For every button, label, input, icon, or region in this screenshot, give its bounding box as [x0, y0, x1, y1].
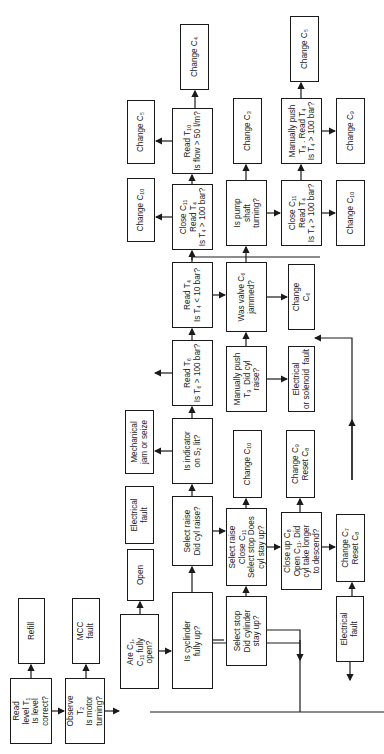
node-label: Electrical fault: [130, 498, 149, 531]
node-label: Electrical fault: [340, 612, 359, 645]
flowchart-node: Are C₁, C₁₁ fully open?: [120, 614, 159, 689]
node-label: Electrical or solenoid fault: [292, 349, 311, 409]
node-label: Read level T₁ Is level correct?: [12, 696, 50, 726]
flowchart-node: Electrical or solenoid fault: [288, 346, 315, 412]
flowchart-node: Refill: [18, 598, 45, 664]
flowchart-node: Close up C₈ Open C₁₁. Did cyl take longe…: [281, 512, 322, 590]
node-label: Change C₅: [136, 112, 146, 152]
node-label: Change C₆: [292, 283, 311, 312]
flowchart-node: Read T₄ Is T₄ < 10 bar?: [172, 262, 213, 328]
node-label: Select raise Close C₁₁ Select stop Does …: [227, 516, 265, 578]
node-label: Read T₆ Is T₆ > 100 bar?: [183, 344, 202, 402]
node-label: Open: [136, 565, 146, 585]
node-label: Change C₁₀: [243, 442, 253, 485]
flowchart-node: Change C₉ Reset C₈: [286, 430, 315, 498]
flowchart-node: Read T₆ Is T₆ > 100 bar?: [172, 340, 213, 406]
flowchart-node: Close C₁₁ Read T₄ Is T₄ > 100 bar?: [172, 184, 213, 250]
node-label: Read T₁₀ Is flow > 50 l/m?: [183, 111, 202, 170]
flowchart-node: Manually push T₉ Did cyl raise?: [226, 346, 267, 412]
flowchart-node: Was valve C₆ jammed?: [226, 262, 267, 332]
flowchart-node: Is cyclinder fully up?: [172, 592, 213, 689]
flowchart-node: Is indicator on S₂ lit?: [172, 418, 213, 484]
flowchart-node: Is pump shaft turning?: [226, 180, 267, 246]
node-label: Are C₁, C₁₁ fully open?: [125, 637, 154, 665]
node-label: Change C₇ Reset C₈: [341, 528, 360, 568]
node-label: Close up C₈ Open C₁₁. Did cyl take longe…: [282, 525, 320, 578]
node-label: Change C₄: [190, 37, 200, 77]
node-label: Change C₁₀: [136, 188, 146, 231]
node-label: Is cyclinder fully up?: [183, 620, 202, 661]
node-label: Close C₁₁ Read T₄ Is T₄ > 100 bar?: [287, 184, 316, 243]
node-label: Observe T₂ Is motor turning?: [66, 696, 104, 727]
node-label: Manually push T₈ . Read T₄ Is T₄ > 100 b…: [287, 102, 316, 161]
flowchart-node: Change C₇ Reset C₈: [336, 514, 365, 582]
flowchart-node: Open: [127, 549, 154, 601]
node-label: Mechanical jam or seize: [130, 420, 149, 464]
flowchart-node: MCC fault: [72, 598, 100, 664]
node-label: Is pump shaft turning?: [232, 198, 261, 228]
node-label: Was valve C₆ jammed?: [237, 273, 256, 322]
flowchart-node: Electrical fault: [125, 486, 154, 544]
flowchart-node: Manually push T₈ . Read T₄ Is T₄ > 100 b…: [281, 98, 322, 164]
node-label: Select stop Did cylinder stay up?: [232, 610, 261, 653]
node-label: Change C₁₀: [346, 191, 356, 234]
flowchart-canvas: Read level T₁ Is level correct?RefillObs…: [0, 0, 384, 754]
flowchart-node: Observe T₂ Is motor turning?: [65, 678, 105, 744]
node-label: Change C₅: [300, 29, 310, 69]
flowchart-node: Electrical fault: [336, 596, 364, 662]
flowchart-node: Change C₁₀: [233, 430, 262, 498]
node-label: Refill: [27, 622, 37, 640]
flowchart-node: Change C₅: [127, 100, 155, 164]
flowchart-node: Change C₃: [233, 98, 262, 164]
flowchart-node: Select raise Close C₁₁ Select stop Does …: [226, 508, 267, 586]
flowchart-node: Change C₁₀: [336, 180, 365, 246]
node-label: Change C₃: [243, 111, 253, 151]
flowchart-node: Mechanical jam or seize: [125, 410, 154, 474]
node-label: Change C₉: [346, 111, 356, 151]
node-label: Change C₉ Reset C₈: [291, 444, 310, 484]
flowchart-node: Close C₁₁ Read T₄ Is T₄ > 100 bar?: [281, 180, 322, 246]
node-label: Read T₄ Is T₄ < 10 bar?: [183, 268, 202, 322]
flowchart-node: Change C₆: [288, 264, 315, 330]
flowchart-node: Change C₅: [290, 16, 319, 82]
node-label: Select raise Did cyl raise?: [183, 506, 202, 555]
node-label: Is indicator on S₂ lit?: [183, 431, 202, 471]
flowchart-node: Change C₁₀: [127, 178, 155, 242]
node-label: Close C₁₁ Read T₄ Is T₄ > 100 bar?: [178, 188, 207, 247]
flowchart-node: Change C₄: [180, 24, 209, 90]
flowchart-node: Read T₁₀ Is flow > 50 l/m?: [172, 108, 213, 174]
node-label: MCC fault: [76, 622, 95, 641]
flowchart-node: Change C₉: [336, 98, 365, 164]
flowchart-node: Select stop Did cylinder stay up?: [226, 596, 267, 666]
flowchart-node: Select raise Did cyl raise?: [172, 496, 213, 566]
flowchart-node: Read level T₁ Is level correct?: [10, 678, 52, 744]
node-label: Manually push T₉ Did cyl raise?: [232, 353, 261, 406]
